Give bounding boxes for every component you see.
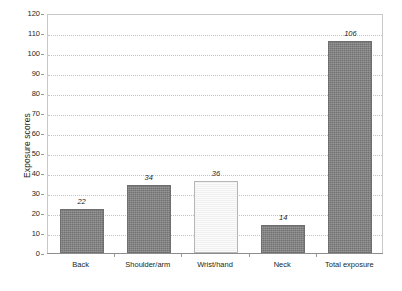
y-axis-tick-label: 120 (18, 10, 40, 18)
bar-value-label: 34 (145, 173, 153, 182)
x-axis-tick-mark (114, 254, 115, 257)
bar-group: 106 (317, 15, 384, 253)
y-axis-tick-mark (41, 14, 44, 15)
y-axis-tick-label: 80 (18, 90, 40, 98)
y-axis-tick-label: 20 (18, 210, 40, 218)
y-axis-tick-mark (41, 114, 44, 115)
y-axis-tick-label: 70 (18, 110, 40, 118)
y-axis-tick-mark (41, 74, 44, 75)
bars-layer: 22343614106 (48, 15, 382, 253)
bar-group: 22 (48, 15, 115, 253)
y-axis-tick-label: 30 (18, 190, 40, 198)
y-axis-tick-mark (41, 194, 44, 195)
bar-value-label: 36 (212, 169, 220, 178)
bar-back (60, 209, 104, 253)
bar-neck (261, 225, 305, 253)
y-axis-tick-label: 50 (18, 150, 40, 158)
bar-group: 34 (115, 15, 182, 253)
x-axis-tick-label: Total exposure (325, 260, 374, 270)
plot-area: 22343614106 (47, 14, 383, 254)
x-axis-tick-label: Neck (274, 260, 291, 270)
x-axis-tick-label: Shoulder/arm (125, 260, 170, 270)
y-axis-tick-mark (41, 254, 44, 255)
bar-wrist-hand (194, 181, 238, 253)
y-axis-tick-label: 90 (18, 70, 40, 78)
x-axis-tick-label: Back (72, 260, 89, 270)
x-axis-tick-mark (316, 254, 317, 257)
y-axis-tick-mark (41, 214, 44, 215)
y-axis-tick-label: 0 (18, 250, 40, 258)
y-axis-tick-label: 60 (18, 130, 40, 138)
bar-value-label: 14 (279, 213, 287, 222)
y-axis-tick-mark (41, 134, 44, 135)
y-axis-tick-mark (41, 154, 44, 155)
x-axis-tick-label: Wrist/hand (197, 260, 233, 270)
bar-value-label: 106 (344, 29, 357, 38)
bar-total-exposure (328, 41, 372, 253)
bar-chart: Exposure scores 010203040506070809010011… (0, 0, 402, 291)
x-axis-tick-mark (249, 254, 250, 257)
y-axis-tick-mark (41, 234, 44, 235)
x-axis-tick-labels: BackShoulder/armWrist/handNeckTotal expo… (47, 260, 383, 276)
y-axis-tick-mark (41, 94, 44, 95)
bar-group: 14 (250, 15, 317, 253)
x-axis-tick-mark (181, 254, 182, 257)
y-axis-tick-mark (41, 54, 44, 55)
y-axis-tick-label: 110 (18, 30, 40, 38)
y-axis-tick-labels: 0102030405060708090100110120 (18, 14, 44, 254)
y-axis-tick-mark (41, 34, 44, 35)
y-axis-tick-label: 100 (18, 50, 40, 58)
bar-value-label: 22 (77, 197, 85, 206)
y-axis-tick-label: 10 (18, 230, 40, 238)
y-axis-tick-label: 40 (18, 170, 40, 178)
x-axis-baseline (47, 253, 383, 254)
bar-shoulder-arm (127, 185, 171, 253)
bar-group: 36 (182, 15, 249, 253)
y-axis-tick-mark (41, 174, 44, 175)
